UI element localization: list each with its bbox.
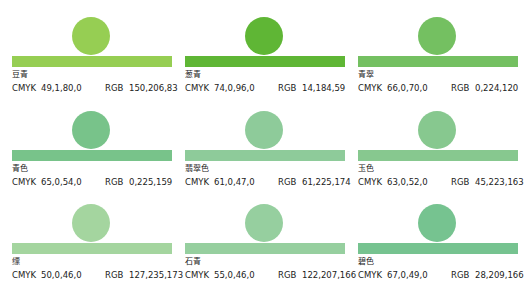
rgb-label: RGB <box>278 83 296 94</box>
rgb-label: RGB <box>451 83 469 94</box>
cmyk-label: CMYK <box>185 270 209 281</box>
cmyk-value: 49,1,80,0 <box>41 83 82 94</box>
rgb-value: 127,235,173 <box>129 270 183 281</box>
rgb-value: 150,206,83 <box>129 83 178 94</box>
rgb-value: 28,209,166 <box>475 270 524 281</box>
rgb-label: RGB <box>105 270 123 281</box>
color-name: 葱青 <box>185 70 201 80</box>
color-swatch-grid: 豆青 CMYK 49,1,80,0 RGB 150,206,83 葱青 CMYK… <box>0 0 530 294</box>
color-circle <box>245 111 283 149</box>
cmyk-label: CMYK <box>358 83 382 94</box>
color-circle <box>72 111 110 149</box>
rgb-label: RGB <box>451 177 469 188</box>
color-name: 青色 <box>12 164 28 174</box>
swatch-card: 豆青 CMYK 49,1,80,0 RGB 150,206,83 <box>12 17 172 109</box>
color-bar <box>358 56 518 67</box>
rgb-value: 61,225,174 <box>302 177 351 188</box>
color-bar <box>358 150 518 161</box>
color-name: 石青 <box>185 257 201 267</box>
swatch-card: 葱青 CMYK 74,0,96,0 RGB 14,184,59 <box>185 17 345 109</box>
rgb-value: 122,207,166 <box>302 270 356 281</box>
color-circle <box>72 17 110 55</box>
color-circle <box>418 111 456 149</box>
cmyk-value: 65,0,54,0 <box>41 177 82 188</box>
swatch-card: 玉色 CMYK 63,0,52,0 RGB 45,223,163 <box>358 111 518 203</box>
color-bar <box>358 243 518 254</box>
cmyk-label: CMYK <box>358 270 382 281</box>
color-name: 玉色 <box>358 164 374 174</box>
color-name: 碧色 <box>358 257 374 267</box>
cmyk-value: 67,0,49,0 <box>387 270 428 281</box>
rgb-label: RGB <box>105 83 123 94</box>
color-circle <box>245 204 283 242</box>
cmyk-label: CMYK <box>358 177 382 188</box>
swatch-card: 青色 CMYK 65,0,54,0 RGB 0,225,159 <box>12 111 172 203</box>
rgb-label: RGB <box>278 177 296 188</box>
color-bar <box>12 56 172 67</box>
swatch-card: 青翠 CMYK 66,0,70,0 RGB 0,224,120 <box>358 17 518 109</box>
color-circle <box>418 17 456 55</box>
cmyk-label: CMYK <box>185 83 209 94</box>
cmyk-value: 61,0,47,0 <box>214 177 255 188</box>
color-bar <box>185 243 345 254</box>
cmyk-label: CMYK <box>12 177 36 188</box>
color-name: 缥 <box>12 257 20 267</box>
color-name: 青翠 <box>358 70 374 80</box>
cmyk-value: 66,0,70,0 <box>387 83 428 94</box>
color-name: 翡翠色 <box>185 164 209 174</box>
color-bar <box>12 150 172 161</box>
rgb-label: RGB <box>105 177 123 188</box>
rgb-value: 14,184,59 <box>302 83 345 94</box>
color-bar <box>12 243 172 254</box>
color-circle <box>245 17 283 55</box>
color-bar <box>185 56 345 67</box>
rgb-value: 45,223,163 <box>475 177 524 188</box>
color-circle <box>72 204 110 242</box>
color-name: 豆青 <box>12 70 28 80</box>
swatch-card: 石青 CMYK 55,0,46,0 RGB 122,207,166 <box>185 204 345 294</box>
cmyk-label: CMYK <box>12 270 36 281</box>
cmyk-value: 50,0,46,0 <box>41 270 82 281</box>
cmyk-value: 74,0,96,0 <box>214 83 255 94</box>
rgb-label: RGB <box>278 270 296 281</box>
rgb-value: 0,225,159 <box>129 177 172 188</box>
swatch-card: 碧色 CMYK 67,0,49,0 RGB 28,209,166 <box>358 204 518 294</box>
cmyk-value: 55,0,46,0 <box>214 270 255 281</box>
swatch-card: 缥 CMYK 50,0,46,0 RGB 127,235,173 <box>12 204 172 294</box>
color-circle <box>418 204 456 242</box>
cmyk-label: CMYK <box>185 177 209 188</box>
color-bar <box>185 150 345 161</box>
swatch-card: 翡翠色 CMYK 61,0,47,0 RGB 61,225,174 <box>185 111 345 203</box>
rgb-label: RGB <box>451 270 469 281</box>
cmyk-label: CMYK <box>12 83 36 94</box>
cmyk-value: 63,0,52,0 <box>387 177 428 188</box>
rgb-value: 0,224,120 <box>475 83 518 94</box>
